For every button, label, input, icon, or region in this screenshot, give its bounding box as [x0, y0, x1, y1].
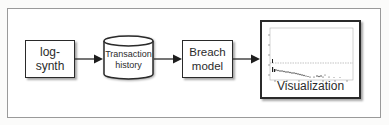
node-breach-model: Breach model — [182, 40, 233, 78]
arrow-right-icon — [154, 53, 183, 65]
scatter-plot-thumbnail — [267, 27, 355, 83]
node-breach-model-label: Breach model — [189, 45, 225, 73]
node-log-synth-label: log- synth — [36, 45, 65, 73]
node-transaction-history: Transaction history — [103, 35, 154, 81]
arrow-right-icon — [233, 53, 261, 65]
node-visualization-label: Visualization — [262, 79, 359, 93]
node-log-synth: log- synth — [25, 40, 75, 78]
arrow-right-icon — [75, 53, 104, 65]
diagram-canvas: log- synth Transaction history Breach mo… — [0, 0, 389, 125]
node-visualization: Visualization — [260, 20, 361, 99]
node-transaction-history-label: Transaction history — [103, 49, 154, 71]
